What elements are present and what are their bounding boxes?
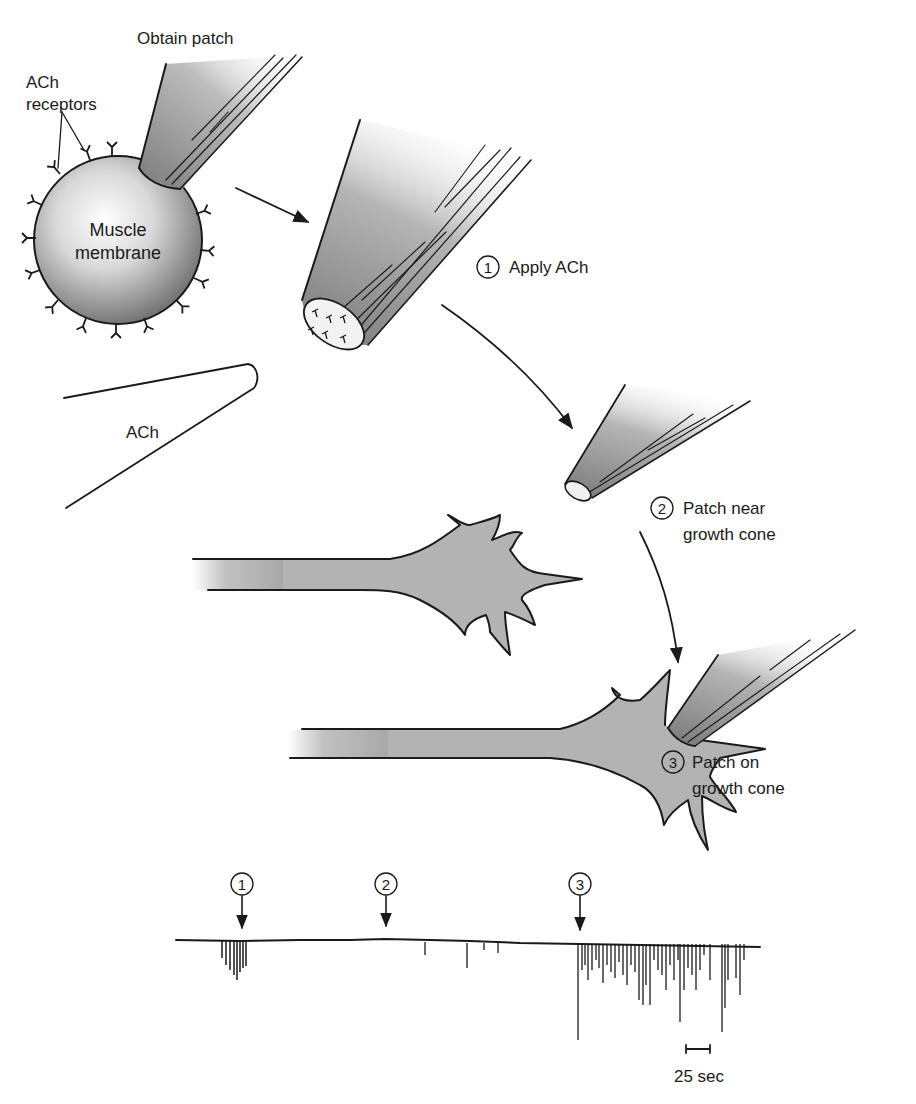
obtain-patch-label: Obtain patch <box>137 29 233 48</box>
trace-marker-2-number: 2 <box>382 876 390 893</box>
growth-cone-upper <box>193 515 582 655</box>
ach-receptors-label-line2: receptors <box>26 95 97 114</box>
step1-text: Apply ACh <box>509 258 588 277</box>
step1-number: 1 <box>484 259 492 276</box>
step2-text-line1: Patch near <box>683 499 766 518</box>
patch-clamp-diagram: Obtain patch ACh receptors Muscle membra… <box>0 0 916 1104</box>
scale-bar-label: 25 sec <box>674 1067 725 1086</box>
step3-text-line2: growth cone <box>692 779 785 798</box>
ach-application-pipette <box>64 364 257 508</box>
muscle-membrane-label-line2: membrane <box>75 243 161 263</box>
step3-text-line1: Patch on <box>692 753 759 772</box>
step2-text-line2: growth cone <box>683 525 776 544</box>
trace-marker-2: 2 <box>375 873 397 926</box>
trace-marker-1-number: 1 <box>238 876 246 893</box>
ach-receptors-label-line1: ACh <box>26 73 59 92</box>
muscle-membrane-label-line1: Muscle <box>89 220 146 240</box>
arrow-to-excised-patch <box>236 188 308 222</box>
trace-marker-1: 1 <box>231 873 253 928</box>
pipette-excised-patch <box>295 120 531 360</box>
arrow-to-step2 <box>442 305 572 428</box>
receptor-pointer-lines <box>58 112 84 168</box>
step3-number: 3 <box>669 754 677 771</box>
current-trace <box>176 939 760 1040</box>
trace-marker-3: 3 <box>569 873 591 930</box>
growth-cone-lower <box>288 630 855 850</box>
pipette-near-growth-cone <box>562 385 750 505</box>
trace-marker-3-number: 3 <box>576 876 584 893</box>
ach-pipette-label: ACh <box>126 423 159 442</box>
step2-number: 2 <box>658 500 666 517</box>
step2-label: 2 Patch near growth cone <box>651 497 776 544</box>
time-scale-bar: 25 sec <box>674 1045 725 1086</box>
pipette-obtain-patch <box>139 55 302 189</box>
arrow-to-step3 <box>640 532 678 662</box>
step1-label: 1 Apply ACh <box>477 256 588 278</box>
